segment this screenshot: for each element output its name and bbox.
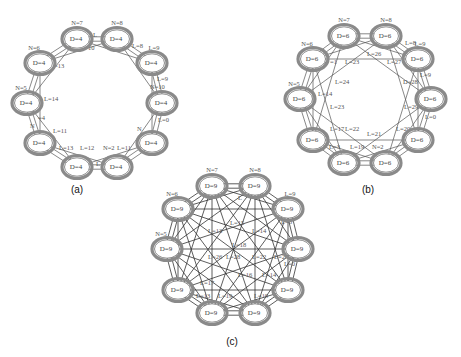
- link-label: L=18: [232, 241, 246, 248]
- graph-node: D=9: [197, 302, 227, 325]
- link-label: D=28: [403, 78, 418, 85]
- panel-c-complete-graph: L=15L=13L=14L=18L=26L=28L=22L=24L=17L=16…: [152, 166, 313, 325]
- graph-node: D=9L=9: [273, 190, 303, 221]
- node-number-label: N=8: [380, 16, 392, 23]
- link-label: N=2: [372, 143, 384, 150]
- caption-b: (b): [362, 184, 374, 195]
- node-number-label: L=9: [415, 40, 426, 47]
- node-number-label: N=6: [166, 190, 178, 197]
- graph-node: D=4N=8: [102, 19, 132, 51]
- graph-node: D=9: [273, 279, 303, 302]
- node-degree-label: D=6: [424, 95, 437, 103]
- node-degree-label: D=9: [248, 182, 261, 190]
- graph-node: D=9N=6: [163, 190, 193, 221]
- link-label: L=14: [44, 95, 59, 102]
- link-label: L=23: [345, 58, 359, 65]
- nodes: D=4N=7D=4N=8D=4L=9D=4D=4D=4D=4D=4D=4N=5D…: [12, 19, 177, 179]
- node-degree-label: D=9: [248, 309, 261, 317]
- graph-node: D=4N=6: [25, 44, 55, 75]
- node-number-label: N=7: [71, 19, 83, 26]
- graph-node: D=6: [403, 129, 433, 152]
- graph-node: D=6: [298, 129, 328, 152]
- caption-c: (c): [226, 336, 238, 347]
- link-label: L: [93, 31, 97, 38]
- node-degree-label: D=9: [171, 286, 184, 294]
- node-number-label: N=5: [15, 84, 27, 91]
- caption-a: (a): [71, 184, 83, 195]
- node-degree-label: D=4: [70, 163, 83, 171]
- graph-node: D=4: [62, 156, 92, 179]
- graph-node: D=9: [283, 238, 313, 261]
- node-number-label: N=7: [206, 166, 218, 173]
- graph-node: D=9N=8: [240, 166, 270, 198]
- node-degree-label: D=9: [281, 205, 294, 213]
- node-degree-label: D=9: [291, 245, 304, 253]
- node-number-label: N=7: [338, 16, 350, 23]
- node-degree-label: D=9: [205, 182, 218, 190]
- link-label: L=9: [420, 71, 431, 78]
- figure-canvas: L10=13L=9N=10L=0L=14L=11L=13L=12N=2L=11L…: [0, 0, 461, 357]
- graph-node: D=9: [240, 302, 270, 325]
- link-label: L: [238, 194, 242, 201]
- link-label: L=11: [53, 127, 67, 134]
- node-degree-label: D=6: [337, 159, 350, 167]
- node-degree-label: D=6: [411, 136, 424, 144]
- node-degree-label: D=9: [281, 286, 294, 294]
- node-degree-label: D=6: [337, 32, 350, 40]
- link-label: L=13: [59, 144, 73, 151]
- node-degree-label: D=9: [160, 245, 173, 253]
- link-label: L=0: [425, 113, 436, 120]
- panel-b-ring-graph: L=26L=23L=27=1L=24L=14L=23D=28L=9L=29L=0…: [285, 16, 446, 175]
- node-number-label: N=6: [301, 40, 313, 47]
- link-label: L=19: [218, 292, 232, 299]
- link-label: =4: [38, 114, 46, 121]
- node-degree-label: D=6: [293, 95, 306, 103]
- link-label: L=15: [230, 219, 244, 226]
- node-degree-label: D=4: [110, 35, 123, 43]
- link-label: L=16: [238, 271, 253, 278]
- node-degree-label: D=6: [306, 136, 319, 144]
- graph-node: D=4N=5: [12, 84, 42, 115]
- graph-node: D=4: [25, 132, 55, 155]
- link-label: N: [137, 125, 142, 132]
- link-label: L=14: [262, 271, 277, 278]
- node-number-label: L=9: [285, 190, 296, 197]
- node-number-label: L=9: [149, 44, 160, 51]
- node-degree-label: D=6: [379, 32, 392, 40]
- node-number-label: N=5: [155, 230, 167, 237]
- link-label: N=2: [103, 144, 115, 151]
- link-label: L=14: [318, 90, 333, 97]
- link-label: L=12: [80, 144, 94, 151]
- node-degree-label: D=4: [20, 99, 33, 107]
- link-label: =1: [330, 58, 337, 65]
- link-label: L=24: [335, 78, 350, 85]
- link-label: L=0: [158, 116, 169, 123]
- node-degree-label: D=4: [155, 99, 168, 107]
- node-degree-label: D=9: [205, 309, 218, 317]
- node-number-label: N=6: [28, 44, 40, 51]
- nodes: D=6N=7D=6N=8D=6L=9D=6D=6D=6D=6D=6D=6N=5D…: [285, 16, 446, 175]
- link-label: L=21: [367, 130, 381, 137]
- graph-node: D=6: [371, 152, 401, 175]
- node-degree-label: D=4: [110, 163, 123, 171]
- link-label: L=22: [252, 253, 266, 260]
- link-label: L=9: [157, 75, 168, 82]
- graph-node: D=6: [329, 152, 359, 175]
- node-degree-label: D=9: [171, 205, 184, 213]
- link-label: L=27: [387, 58, 402, 65]
- graph-node: D=4: [137, 132, 167, 155]
- node-degree-label: D=4: [70, 35, 83, 43]
- link-label: L=19: [350, 143, 364, 150]
- node-degree-label: D=4: [145, 59, 158, 67]
- link-label: L=8: [132, 42, 143, 49]
- node-degree-label: D=6: [306, 55, 319, 63]
- node-degree-label: D=4: [33, 59, 46, 67]
- graph-node: D=4: [147, 92, 177, 115]
- link-label: N: [30, 122, 35, 129]
- link-label: L: [96, 160, 100, 167]
- graph-node: D=4: [102, 156, 132, 179]
- link-label: L=28: [226, 253, 240, 260]
- link-label: L=19: [254, 292, 268, 299]
- graph-node: D=6N=8: [371, 16, 401, 48]
- link-label: L=22: [345, 125, 359, 132]
